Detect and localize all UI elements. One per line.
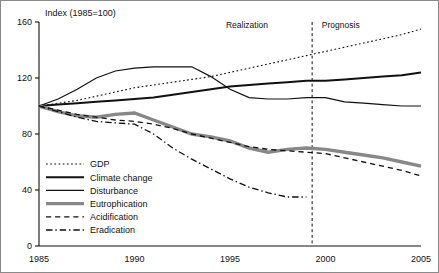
y-axis-title: Index (1985=100) <box>45 8 116 18</box>
y-tick-label-0: 0 <box>27 241 32 251</box>
x-axis-ticks: 19851990199520002005 <box>29 254 431 264</box>
y-tick-label-120: 120 <box>17 73 32 83</box>
annotation-prognosis: Prognosis <box>322 20 360 30</box>
index-trend-line-chart: 04080120160 19851990199520002005 Index (… <box>1 1 439 273</box>
legend-label-eutrophication: Eutrophication <box>90 199 148 209</box>
x-tick-label-1995: 1995 <box>220 254 240 264</box>
chart-frame: 04080120160 19851990199520002005 Index (… <box>0 0 439 273</box>
series-line-eutrophication <box>39 106 421 166</box>
legend-label-acidification: Acidification <box>90 212 138 222</box>
y-tick-label-160: 160 <box>17 17 32 27</box>
legend-label-disturbance: Disturbance <box>90 186 138 196</box>
x-tick-label-1985: 1985 <box>29 254 49 264</box>
x-tick-label-2005: 2005 <box>411 254 431 264</box>
y-tick-label-40: 40 <box>22 185 32 195</box>
x-tick-label-2000: 2000 <box>315 254 335 264</box>
y-axis-ticks: 04080120160 <box>17 17 39 251</box>
x-tick-label-1990: 1990 <box>124 254 144 264</box>
y-tick-label-80: 80 <box>22 129 32 139</box>
legend-label-climate-change: Climate change <box>90 173 153 183</box>
series-line-gdp <box>39 29 421 106</box>
chart-legend: GDPClimate changeDisturbanceEutrophicati… <box>46 159 153 235</box>
legend-label-gdp: GDP <box>90 159 110 169</box>
legend-label-eradication: Eradication <box>90 225 135 235</box>
annotation-group: RealizationPrognosis <box>226 20 360 30</box>
annotation-realization: Realization <box>226 20 268 30</box>
